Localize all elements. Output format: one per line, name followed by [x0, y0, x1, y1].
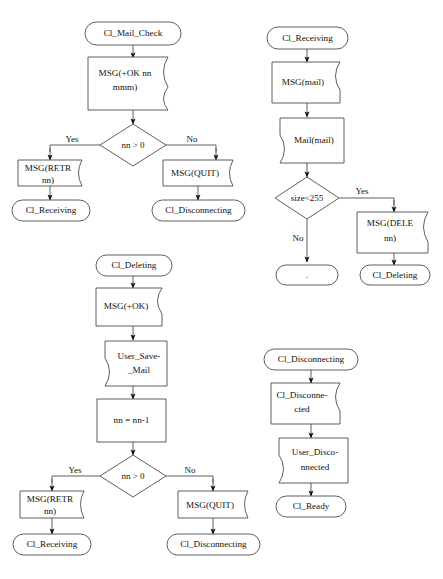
edge-label-yes: Yes	[68, 465, 82, 475]
node-msg-quit-deleting[interactable]: MSG(QUIT)	[178, 491, 248, 518]
connector-no	[166, 145, 216, 152]
node-decision-size-lt-255[interactable]: size<255	[275, 177, 339, 219]
node-label-line2: nnected	[301, 462, 330, 472]
node-label: Cl_Ready	[293, 501, 330, 511]
node-cl-deleting-terminal[interactable]: Cl_Deleting	[360, 265, 430, 285]
node-label-line1: User_Save-	[118, 351, 161, 361]
node-label: MSG(QUIT)	[186, 500, 234, 510]
node-label: Cl_Receiving	[282, 33, 333, 43]
node-cl-disconnecting-start[interactable]: Cl_Disconnecting	[264, 349, 358, 370]
edge-label-no: No	[187, 134, 198, 144]
node-cl-receiving-mailcheck[interactable]: Cl_Receiving	[12, 200, 90, 221]
edge-label-yes: Yes	[355, 186, 369, 196]
node-cl-receiving-deleting[interactable]: Cl_Receiving	[13, 534, 91, 555]
node-label-line1: User_Disco-	[292, 447, 338, 457]
node-cl-disconnected[interactable]: Cl_Disconne- cted	[271, 383, 340, 424]
node-msg-mail[interactable]: MSG(mail)	[272, 62, 340, 103]
node-label: nn > 0	[121, 140, 145, 150]
node-cl-ready[interactable]: Cl_Ready	[276, 496, 346, 517]
node-label: Cl_Receiving	[26, 205, 77, 215]
node-decision-nn-gt-0-mailcheck[interactable]: nn > 0	[100, 124, 166, 166]
node-label: MSG(+OK)	[104, 301, 148, 311]
node-cl-disconnecting-deleting[interactable]: Cl_Disconnecting	[167, 534, 260, 555]
node-label-line1: MSG(+OK nn	[99, 68, 152, 78]
node-label: Cl_Disconnecting	[180, 539, 247, 549]
edge-label-yes: Yes	[65, 134, 79, 144]
node-msg-quit-mailcheck[interactable]: MSG(QUIT)	[163, 160, 233, 186]
node-label: Mail(mail)	[294, 135, 334, 145]
node-msg-dele-nn[interactable]: MSG(DELE nn)	[357, 212, 428, 253]
node-label: MSG(QUIT)	[171, 168, 219, 178]
node-cl-receiving-start[interactable]: Cl_Receiving	[267, 27, 348, 49]
node-user-save-mail[interactable]: User_Save- _Mail	[105, 341, 167, 386]
node-label-line1: Cl_Disconne-	[276, 390, 327, 400]
node-label-line1: MSG(DELE	[367, 218, 414, 228]
node-receiving-end-terminal[interactable]: .	[276, 265, 338, 285]
node-label: nn = nn-1	[114, 415, 150, 425]
node-cl-mail-check[interactable]: Cl_Mail_Check	[85, 22, 181, 45]
node-user-disconnected[interactable]: User_Disco- nnected	[279, 438, 348, 483]
connector-yes	[52, 476, 100, 483]
node-label: .	[306, 270, 308, 280]
node-msg-retr-nn-mailcheck[interactable]: MSG(RETR nn)	[18, 160, 82, 186]
node-msg-retr-nn-deleting[interactable]: MSG(RETR nn)	[20, 491, 84, 518]
node-label: Cl_Disconnecting	[165, 205, 232, 215]
connector-yes	[50, 145, 100, 152]
node-label: Cl_Deleting	[112, 260, 157, 270]
flowchart-canvas: Cl_Mail_Check MSG(+OK nn mmm) nn > 0 Yes…	[0, 0, 443, 579]
node-label: MSG(mail)	[282, 77, 324, 87]
node-label: size<255	[291, 193, 324, 203]
edge-label-no: No	[293, 233, 304, 243]
node-label: nn > 0	[121, 471, 145, 481]
node-msg-plus-ok-nn[interactable]: MSG(+OK nn mmm)	[88, 57, 168, 110]
node-cl-disconnecting-mailcheck[interactable]: Cl_Disconnecting	[152, 200, 245, 221]
node-decision-nn-gt-0-deleting[interactable]: nn > 0	[100, 455, 166, 497]
node-label-line2: nn)	[384, 233, 396, 243]
node-label-line2: cted	[294, 404, 310, 414]
node-label: Cl_Mail_Check	[104, 28, 163, 38]
node-label-line1: MSG(RETR	[25, 163, 72, 173]
node-label: Cl_Disconnecting	[278, 354, 345, 364]
node-msg-plus-ok[interactable]: MSG(+OK)	[96, 288, 162, 326]
node-label-line2: mmm)	[113, 82, 138, 92]
node-cl-deleting-start[interactable]: Cl_Deleting	[96, 255, 172, 276]
node-label: Cl_Deleting	[373, 270, 418, 280]
node-label-line2: nn)	[42, 175, 54, 185]
node-nn-decrement[interactable]: nn = nn-1	[97, 399, 166, 442]
connector-no	[166, 476, 213, 483]
node-label-line2: nn)	[44, 506, 56, 516]
node-mail-mail[interactable]: Mail(mail)	[280, 118, 344, 163]
edge-label-no: No	[185, 465, 196, 475]
node-label-line2: _Mail	[127, 365, 150, 375]
node-label: Cl_Receiving	[27, 539, 78, 549]
node-label-line1: MSG(RETR	[27, 494, 74, 504]
connector-yes	[339, 198, 394, 205]
